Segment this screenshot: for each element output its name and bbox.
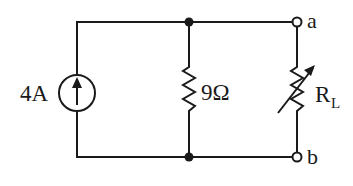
terminal-b-label: b [307, 144, 318, 169]
top-wire [77, 22, 293, 75]
circuit-diagram: 4A 9Ω R L a b [0, 0, 353, 186]
terminal-a-label: a [307, 8, 317, 33]
junction-top-icon [185, 18, 194, 27]
terminal-b-icon [293, 153, 302, 162]
load-label-subscript: L [331, 95, 340, 111]
resistor-9ohm [183, 22, 195, 157]
load-label: R [315, 82, 331, 107]
source-arrowhead-icon [72, 77, 82, 88]
variable-arrowhead-icon [304, 65, 315, 76]
junction-bottom-icon [185, 153, 194, 162]
resistor-label: 9Ω [201, 80, 230, 105]
terminal-a-icon [293, 18, 302, 27]
source-label: 4A [20, 81, 49, 106]
bottom-wire [77, 111, 293, 157]
